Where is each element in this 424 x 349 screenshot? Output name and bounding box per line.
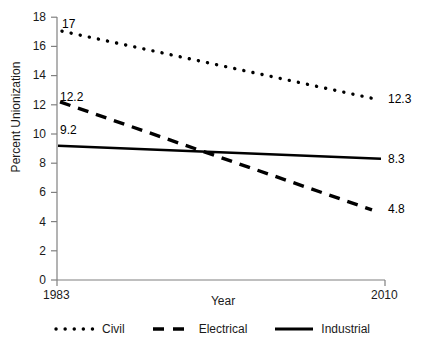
annotation-civil-start: 17 bbox=[62, 17, 75, 31]
legend-swatch-solid-icon bbox=[273, 324, 315, 334]
series-line-civil bbox=[62, 31, 379, 100]
annotation-civil-end: 12.3 bbox=[388, 92, 411, 106]
y-tick-label-16: 16 bbox=[12, 39, 46, 53]
legend-label-civil: Civil bbox=[102, 322, 125, 336]
y-tick-label-18: 18 bbox=[12, 10, 46, 24]
y-tick-label-4: 4 bbox=[12, 215, 46, 229]
annotation-industrial-start: 9.2 bbox=[60, 123, 77, 137]
legend-item-electrical[interactable]: Electrical bbox=[151, 322, 248, 336]
series-line-industrial bbox=[58, 146, 381, 159]
unionization-line-chart: 18 16 14 12 10 8 6 4 2 0 1983 2010 Perce… bbox=[0, 0, 424, 349]
x-axis-title: Year bbox=[178, 294, 268, 308]
legend-label-industrial: Industrial bbox=[321, 322, 370, 336]
y-tick-label-2: 2 bbox=[12, 244, 46, 258]
annotation-electrical-end: 4.8 bbox=[388, 202, 405, 216]
legend-item-industrial[interactable]: Industrial bbox=[273, 322, 370, 336]
y-tick-label-6: 6 bbox=[12, 185, 46, 199]
chart-legend: Civil Electrical Industrial bbox=[0, 322, 424, 336]
legend-item-civil[interactable]: Civil bbox=[54, 322, 125, 336]
y-axis-title: Percent Unionization bbox=[9, 57, 23, 177]
annotation-industrial-end: 8.3 bbox=[388, 152, 405, 166]
x-tick-label-2010: 2010 bbox=[371, 288, 398, 302]
x-axis-ticks bbox=[57, 280, 385, 286]
annotation-electrical-start: 12.2 bbox=[60, 90, 83, 104]
legend-swatch-dashed-icon bbox=[151, 324, 193, 334]
legend-swatch-dotted-icon bbox=[54, 324, 96, 334]
y-axis-ticks bbox=[51, 17, 57, 280]
x-tick-label-1983: 1983 bbox=[43, 288, 70, 302]
legend-label-electrical: Electrical bbox=[199, 322, 248, 336]
y-tick-label-0: 0 bbox=[12, 273, 46, 287]
